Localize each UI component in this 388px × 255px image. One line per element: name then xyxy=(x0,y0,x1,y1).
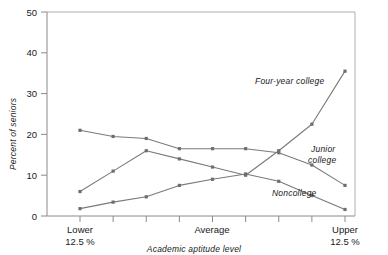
data-point xyxy=(310,123,313,126)
x-category-sublabel-upper: 12.5 % xyxy=(330,236,360,247)
data-point xyxy=(178,147,181,150)
data-point xyxy=(277,180,280,183)
y-tick-label: 20 xyxy=(26,129,37,140)
x-category-label-average: Average xyxy=(194,224,229,235)
chart-background xyxy=(0,0,388,255)
data-point xyxy=(343,208,346,211)
x-category-sublabel-lower: 12.5 % xyxy=(65,236,95,247)
data-point xyxy=(244,147,247,150)
data-point xyxy=(78,190,81,193)
y-tick-label: 30 xyxy=(26,88,37,99)
data-point xyxy=(112,201,115,204)
data-point xyxy=(343,184,346,187)
data-point xyxy=(112,135,115,138)
data-point xyxy=(277,149,280,152)
data-point xyxy=(211,147,214,150)
data-point xyxy=(112,170,115,173)
y-tick-label: 40 xyxy=(26,47,37,58)
data-point xyxy=(145,195,148,198)
y-tick-label: 50 xyxy=(26,7,37,18)
data-point xyxy=(211,178,214,181)
x-category-label-upper: Upper xyxy=(332,224,358,235)
series-label-noncollege: Noncollege xyxy=(272,188,317,198)
x-axis-title: Academic aptitude level xyxy=(146,244,242,254)
data-point xyxy=(178,157,181,160)
series-label-junior: Junior xyxy=(310,144,336,154)
data-point xyxy=(78,129,81,132)
series-label-four-year-college: Four-year college xyxy=(255,76,324,86)
data-point xyxy=(78,207,81,210)
data-point xyxy=(343,70,346,73)
y-tick-label: 10 xyxy=(26,170,37,181)
x-category-label-lower: Lower xyxy=(67,224,93,235)
data-point xyxy=(145,149,148,152)
y-axis-title: Percent of seniors xyxy=(8,97,18,170)
data-point xyxy=(145,137,148,140)
data-point xyxy=(178,184,181,187)
line-chart: 50 40 30 20 10 0 Percent of seniors Lowe… xyxy=(0,0,388,255)
data-point xyxy=(211,165,214,168)
data-point xyxy=(244,172,247,175)
y-tick-label: 0 xyxy=(32,211,37,222)
series-label-college: college xyxy=(308,155,336,165)
chart-container: 50 40 30 20 10 0 Percent of seniors Lowe… xyxy=(0,0,388,255)
